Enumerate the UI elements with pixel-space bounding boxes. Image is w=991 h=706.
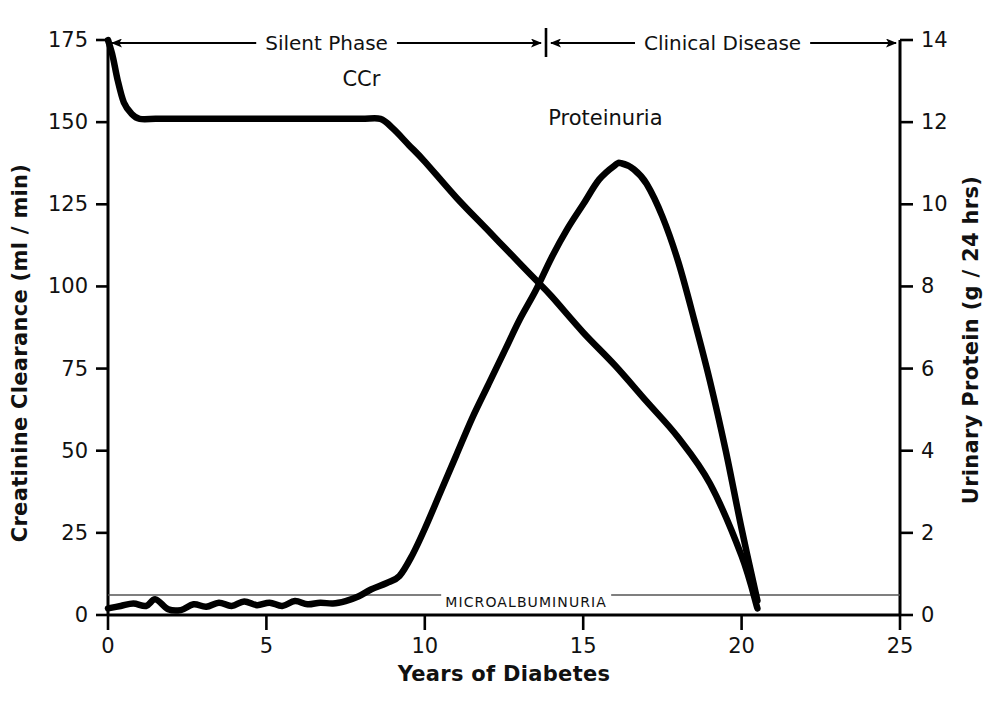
y-tick-label-left: 75 <box>61 357 88 381</box>
y-tick-label-right: 14 <box>921 28 948 52</box>
y-tick-label-left: 25 <box>61 521 88 545</box>
x-tick-label: 20 <box>728 634 755 658</box>
y-tick-label-right: 0 <box>921 603 934 627</box>
x-axis-ticks <box>108 615 900 630</box>
series-label-ccr: CCr <box>342 67 380 91</box>
axis-lines <box>108 40 900 615</box>
annotation-clinical-disease: Clinical Disease <box>637 31 808 55</box>
series-proteinuria-line <box>108 163 757 611</box>
y-tick-label-left: 175 <box>48 28 88 52</box>
y-tick-label-right: 2 <box>921 521 934 545</box>
y-tick-label-left: 150 <box>48 110 88 134</box>
y-tick-label-right: 6 <box>921 357 934 381</box>
x-tick-label: 10 <box>411 634 438 658</box>
y-tick-label-left: 100 <box>48 274 88 298</box>
y-tick-label-right: 12 <box>921 110 948 134</box>
y-tick-label-left: 50 <box>61 439 88 463</box>
y-tick-label-left: 0 <box>75 603 88 627</box>
series-label-proteinuria: Proteinuria <box>548 106 662 130</box>
chart-figure: Creatinine Clearance (ml / min) Urinary … <box>0 0 991 706</box>
x-tick-label: 15 <box>570 634 597 658</box>
x-tick-label: 5 <box>260 634 273 658</box>
y-tick-label-right: 10 <box>921 192 948 216</box>
y-tick-label-right: 4 <box>921 439 934 463</box>
y-tick-label-right: 8 <box>921 274 934 298</box>
x-tick-label: 25 <box>887 634 914 658</box>
y-tick-label-left: 125 <box>48 192 88 216</box>
y-axis-right-ticks <box>900 40 913 615</box>
y-axis-left-ticks <box>96 40 108 615</box>
annotation-microalbuminuria: MICROALBUMINURIA <box>441 594 611 610</box>
annotation-silent-phase: Silent Phase <box>258 31 395 55</box>
x-tick-label: 0 <box>101 634 114 658</box>
